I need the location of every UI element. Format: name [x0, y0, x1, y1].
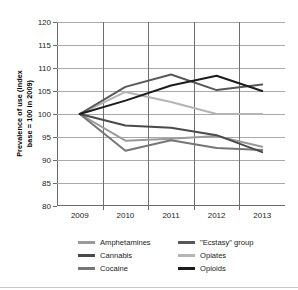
x-tick-mark-2 — [148, 206, 149, 210]
series-line-cocaine — [80, 114, 262, 151]
y-tick-mark-80 — [53, 206, 57, 207]
legend-label: Cannabis — [100, 251, 132, 260]
series-line-opiates — [80, 92, 262, 114]
y-tick-label-105: 105 — [38, 87, 51, 96]
x-tick-mark-1 — [103, 206, 104, 210]
legend-swatch-icon — [78, 254, 95, 257]
series-lines — [57, 22, 285, 206]
footer-divider — [0, 287, 298, 288]
legend-item-opiates[interactable]: Opiates — [178, 251, 290, 260]
chart-figure: Prevalence of use (index base = 100 in 2… — [0, 0, 298, 290]
legend-label: Opioids — [200, 264, 226, 273]
legend-swatch-icon — [178, 254, 195, 257]
y-axis-title: Prevalence of use (index base = 100 in 2… — [15, 44, 34, 184]
y-tick-label-85: 85 — [42, 179, 51, 188]
legend-label: "Ecstasy" group — [200, 238, 254, 247]
legend-item-cannabis[interactable]: Cannabis — [78, 251, 178, 260]
series-line--ecstasy-group — [80, 74, 262, 114]
y-tick-label-100: 100 — [38, 110, 51, 119]
legend-swatch-icon — [78, 241, 95, 244]
y-tick-label-120: 120 — [38, 18, 51, 27]
y-tick-label-80: 80 — [42, 202, 51, 211]
legend-item-opioids[interactable]: Opioids — [178, 264, 290, 273]
legend-label: Cocaine — [100, 264, 128, 273]
x-tick-label-2012: 2012 — [208, 211, 226, 220]
legend-label: Amphetamines — [100, 238, 151, 247]
series-line-opioids — [80, 76, 262, 114]
chart-legend: Amphetamines"Ecstasy" groupCannabisOpiat… — [78, 236, 290, 275]
legend-swatch-icon — [178, 241, 195, 244]
x-tick-label-2013: 2013 — [253, 211, 271, 220]
series-line-cannabis — [80, 114, 262, 152]
y-tick-label-110: 110 — [38, 64, 51, 73]
x-tick-label-2010: 2010 — [116, 211, 134, 220]
legend-label: Opiates — [200, 251, 226, 260]
plot-area: 80859095100105110115120 2009201020112012… — [57, 22, 285, 206]
legend-item--ecstasy-group[interactable]: "Ecstasy" group — [178, 238, 290, 247]
legend-item-amphetamines[interactable]: Amphetamines — [78, 238, 178, 247]
x-tick-label-2011: 2011 — [162, 211, 179, 220]
legend-swatch-icon — [78, 267, 95, 270]
legend-item-cocaine[interactable]: Cocaine — [78, 264, 178, 273]
x-tick-mark-4 — [239, 206, 240, 210]
x-tick-label-2009: 2009 — [71, 211, 89, 220]
y-tick-label-115: 115 — [38, 41, 51, 50]
y-tick-label-95: 95 — [42, 133, 51, 142]
legend-swatch-icon — [178, 267, 195, 270]
x-tick-mark-3 — [194, 206, 195, 210]
y-tick-label-90: 90 — [42, 156, 51, 165]
